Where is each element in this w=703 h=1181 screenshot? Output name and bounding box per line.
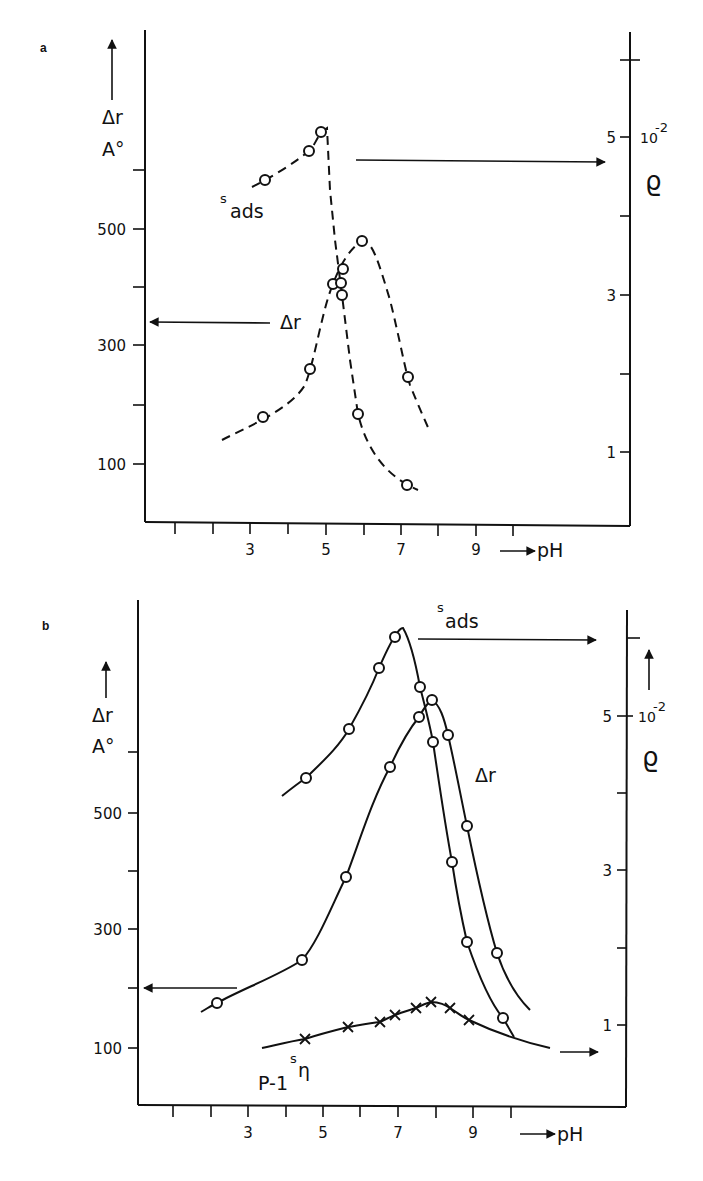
x-label-3: 3 [245,541,255,559]
exponent: -2 [653,699,666,714]
chart-b-x-markers [300,997,474,1044]
panel-a-label: a [40,41,47,55]
y-left-label-300: 300 [97,337,126,355]
chart-b-x-ticks [173,1106,511,1118]
figure: a [0,0,703,1181]
chart-a-left-ticks [133,170,145,464]
chart-a: a [40,30,668,561]
chart-b-axes [138,600,627,1107]
y-left-label-300: 300 [93,921,122,939]
y-right-label-5: 5 [606,129,616,147]
right-arrow-icon [418,639,596,640]
y-left-label-500: 500 [97,221,126,239]
rho-label: ϱ [645,166,662,196]
chart-b-left-ticks [128,752,138,1048]
series-sads [282,628,514,1037]
ph-label: pH [557,1123,583,1145]
chart-b-right-ticks [617,638,640,1025]
x-label-7: 7 [393,1124,403,1142]
sample-label: P-1 [258,1072,288,1094]
x-label-3: 3 [243,1124,253,1142]
chart-b-series [201,628,550,1048]
chart-a-markers [258,127,413,490]
angstrom-label: A° [92,735,115,757]
chart-b-markers [212,632,508,1023]
y-left-label-100: 100 [97,456,126,474]
angstrom-label: A° [102,138,125,160]
right-arrow-icon [356,160,605,162]
x-label-7: 7 [396,541,406,559]
y-left-label-100: 100 [93,1040,122,1058]
rho-label: ϱ [642,742,659,772]
series-delta-r [222,241,430,440]
sads-label: ads [230,200,264,222]
left-arrow-icon [150,322,270,323]
series-delta-r [201,700,530,1012]
seta-s: s [290,1051,297,1066]
ph-label: pH [537,539,563,561]
x-label-9: 9 [468,1124,478,1142]
y-left-label-500: 500 [93,805,122,823]
x-label-5: 5 [318,1124,328,1142]
exponent: -2 [655,120,668,135]
sads-s: s [437,600,444,615]
y-right-label-1: 1 [606,444,616,462]
delta-r-label: Δr [92,704,113,726]
x-label-9: 9 [471,541,481,559]
y-right-label-1: 1 [602,1017,612,1035]
panel-b-label: b [42,619,49,633]
sads-s: s [220,191,227,206]
seta-label: η [298,1059,310,1081]
delta-r-label: Δr [102,106,123,128]
sads-label: ads [445,610,479,632]
y-right-label-3: 3 [606,287,616,305]
y-right-label-3: 3 [602,862,612,880]
y-right-label-5: 5 [602,708,612,726]
chart-a-axes [145,30,630,526]
chart-a-series [222,128,430,490]
delta-r-annotation: Δr [475,764,496,786]
delta-r-annotation: Δr [280,311,301,333]
x-label-5: 5 [321,541,331,559]
chart-b: b [42,600,666,1145]
